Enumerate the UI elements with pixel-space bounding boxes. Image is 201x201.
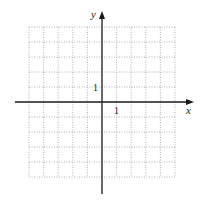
coordinate-plane: x y 1 1 <box>0 0 201 201</box>
y-tick-label: 1 <box>93 82 98 93</box>
x-tick-label: 1 <box>114 105 119 116</box>
y-axis-label: y <box>90 8 96 20</box>
axes <box>15 16 189 194</box>
y-axis-arrow-icon <box>99 11 105 19</box>
x-axis-label: x <box>185 104 191 116</box>
